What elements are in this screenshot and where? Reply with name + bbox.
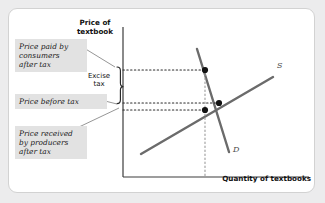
- leader-line-producer: [79, 108, 119, 127]
- x-axis-label: Quantity of textbooks: [199, 175, 311, 184]
- equilibrium-point: [216, 100, 222, 106]
- producer-price-point: [202, 107, 208, 113]
- leader-line-consumer: [84, 48, 115, 67]
- callout-producer-price: Price received by producers after tax: [15, 126, 87, 159]
- supply-curve: [141, 77, 273, 154]
- demand-curve-label: D: [233, 145, 239, 154]
- callout-pretax-price: Price before tax: [15, 94, 107, 109]
- consumer-price-point: [202, 67, 208, 73]
- callout-consumer-price: Price paid by consumers after tax: [15, 39, 87, 72]
- y-axis-label: Price of textbook: [71, 19, 119, 36]
- demand-curve: [197, 49, 229, 152]
- excise-tax-label: Excise tax: [83, 72, 115, 89]
- figure-card: Price of textbook Quantity of textbooks …: [8, 8, 315, 193]
- supply-curve-label: S: [277, 61, 282, 70]
